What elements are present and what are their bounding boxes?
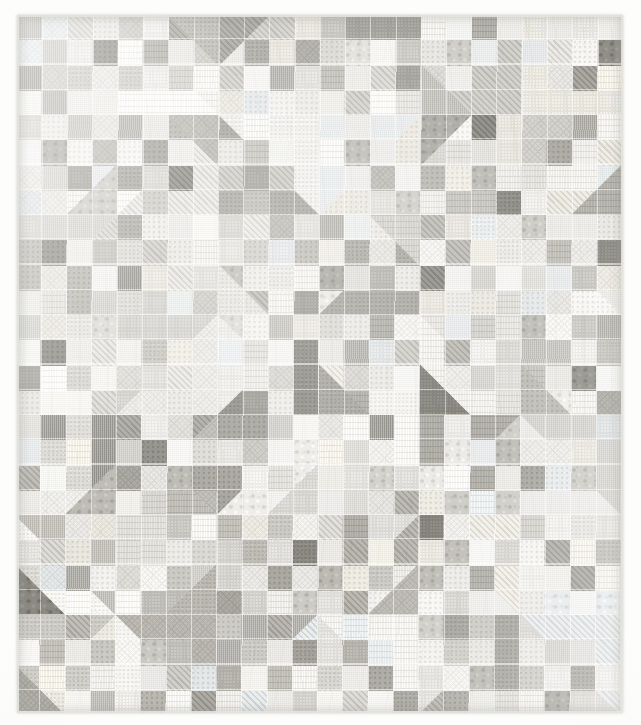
block-seam-lines [319,215,420,315]
quilt-block [17,15,118,115]
quilt-block [320,15,421,115]
quilt-block [116,315,217,415]
block-seam-lines [117,115,218,215]
quilt-block [521,215,622,315]
block-seam-lines [117,215,218,315]
quilt-block [17,215,117,315]
quilt-block [419,415,520,515]
quilt-photograph [0,0,641,725]
quilt-block [317,615,418,713]
block-seam-lines [318,315,419,415]
quilt-block [418,615,519,713]
quilt-block [117,115,218,215]
quilt-block [216,515,317,615]
block-seam-lines [17,315,117,415]
quilt-block [218,115,319,215]
quilt-block [319,215,420,315]
block-seam-lines [420,215,521,315]
block-seam-lines [17,515,116,615]
quilt-block [216,615,317,713]
block-seam-lines [419,415,520,515]
block-seam-lines [519,515,620,615]
block-seam-lines [217,415,318,515]
block-seam-lines [115,615,216,713]
quilt-block [519,515,620,615]
block-seam-lines [318,415,419,515]
quilt-block [17,615,115,713]
quilt-block [519,615,620,713]
quilt-blocks-grid [17,15,623,713]
quilt-block [115,515,216,615]
block-seam-lines [116,415,217,515]
quilt-block [317,515,418,615]
quilt-block [522,15,623,115]
block-seam-lines [118,15,219,115]
quilt-block [319,115,420,215]
block-seam-lines [319,115,420,215]
block-seam-lines [317,615,418,713]
quilt-block [318,415,419,515]
block-seam-lines [218,115,319,215]
block-seam-lines [116,315,217,415]
quilt-block [17,115,118,215]
photo-lower-margin [0,713,641,725]
block-seam-lines [317,515,418,615]
block-seam-lines [418,515,519,615]
quilt-block [115,615,216,713]
quilt-block [520,415,621,515]
quilt-block [217,315,318,415]
block-seam-lines [520,415,621,515]
quilt-block [521,115,622,215]
block-seam-lines [521,115,622,215]
block-seam-lines [320,15,421,115]
quilt-block [17,415,116,515]
block-seam-lines [519,615,620,713]
block-seam-lines [217,315,318,415]
block-seam-lines [17,615,115,713]
quilt-block [218,215,319,315]
block-seam-lines [421,15,522,115]
quilt-block [118,15,219,115]
block-seam-lines [216,515,317,615]
quilt-block [116,415,217,515]
quilt-block [421,15,522,115]
block-seam-lines [17,115,118,215]
quilt-block [418,515,519,615]
quilt-block [318,315,419,415]
block-seam-lines [115,515,216,615]
block-seam-lines [216,615,317,713]
quilt-block [217,415,318,515]
block-seam-lines [522,15,623,115]
quilt-block [17,515,116,615]
block-seam-lines [418,615,519,713]
quilt-block [420,115,521,215]
block-seam-lines [521,215,622,315]
quilt-block [117,215,218,315]
quilt-block [520,315,621,415]
block-seam-lines [419,315,520,415]
quilt [17,15,623,713]
block-seam-lines [17,15,118,115]
block-seam-lines [17,415,116,515]
block-seam-lines [218,215,319,315]
quilt-block [419,315,520,415]
block-seam-lines [420,115,521,215]
quilt-block [420,215,521,315]
quilt-block [17,315,117,415]
block-seam-lines [520,315,621,415]
quilt-block [219,15,320,115]
block-seam-lines [17,215,117,315]
block-seam-lines [219,15,320,115]
